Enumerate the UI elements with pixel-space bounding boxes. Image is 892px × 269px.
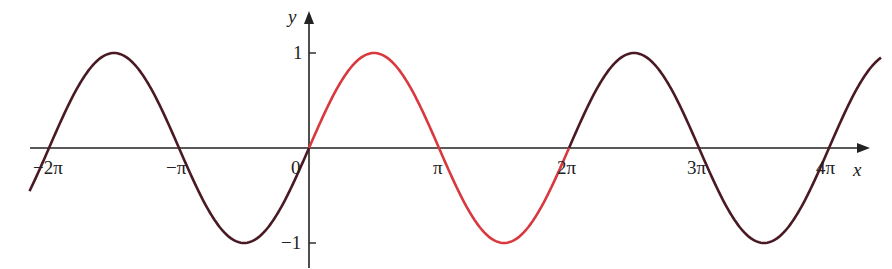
- x-tick-label: π: [433, 157, 443, 178]
- x-axis-arrow-icon: [857, 143, 870, 153]
- x-axis-label: x: [852, 159, 862, 180]
- x-tick-label: 2π: [557, 157, 577, 178]
- y-axis-label: y: [286, 6, 297, 27]
- x-tick-label: 0: [291, 157, 301, 178]
- x-tick-label: −π: [166, 157, 187, 178]
- x-tick-label: 3π: [687, 157, 707, 178]
- y-axis-arrow-icon: [304, 11, 314, 24]
- x-tick-label: −2π: [33, 157, 63, 178]
- x-tick-label: 4π: [816, 157, 836, 178]
- y-tick-label: −1: [281, 232, 301, 253]
- sine-graph: x y −2π −π 0 π 2π 3π 4π 1 −1: [0, 0, 892, 269]
- y-tick-label: 1: [293, 42, 303, 63]
